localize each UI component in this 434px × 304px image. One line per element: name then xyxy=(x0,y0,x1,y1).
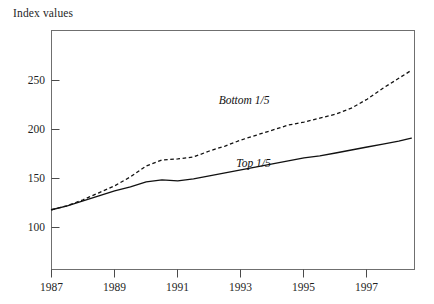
x-tick-group xyxy=(52,270,367,278)
series-annotation-top-one-fifth: Top 1/5 xyxy=(236,157,271,170)
x-tick-label-1991: 1991 xyxy=(166,281,189,293)
y-tick-label-200: 200 xyxy=(28,123,46,135)
x-tick-label-1997: 1997 xyxy=(355,281,378,293)
x-tick-label-1995: 1995 xyxy=(292,281,315,293)
series-line-top-one-fifth xyxy=(52,138,412,210)
y-tick-label-100: 100 xyxy=(28,221,46,233)
chart-figure: Index values 250 200 150 100 1987 1989 1… xyxy=(0,0,434,304)
line-chart-plot: 250 200 150 100 1987 1989 1991 1993 1995… xyxy=(0,0,434,304)
x-tick-label-1989: 1989 xyxy=(103,281,126,293)
series-annotation-bottom-one-fifth: Bottom 1/5 xyxy=(219,94,270,106)
y-tick-label-250: 250 xyxy=(28,74,46,86)
x-tick-label-1993: 1993 xyxy=(229,281,252,293)
plot-frame xyxy=(52,31,415,270)
y-tick-group xyxy=(52,81,60,228)
series-line-bottom-one-fifth xyxy=(52,70,412,209)
y-tick-label-150: 150 xyxy=(28,172,46,184)
x-tick-label-1987: 1987 xyxy=(40,281,63,293)
